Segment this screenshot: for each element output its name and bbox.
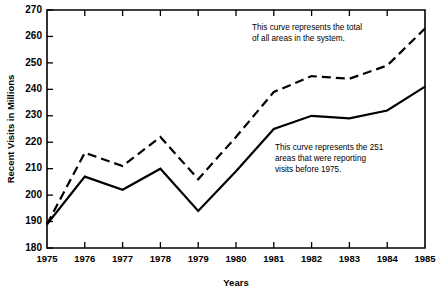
x-axis-ticks	[85, 10, 387, 248]
x-tick-label-1979: 1979	[188, 253, 209, 264]
x-tick-label-1977: 1977	[112, 253, 133, 264]
chart-container: 180190200210220230240250260270 197519761…	[0, 0, 439, 294]
y-axis-ticks	[47, 10, 53, 248]
plot-frame	[47, 10, 425, 248]
x-tick-label-1981: 1981	[263, 253, 285, 264]
x-tick-label-1982: 1982	[301, 253, 322, 264]
y-tick-label-180: 180	[25, 242, 42, 253]
annotation-reporting-line-3: visits before 1975.	[275, 165, 341, 174]
annotation-total-line-1: This curve represents the total	[252, 23, 362, 32]
annotation-reporting-line-1: This curve represents the 251	[275, 143, 384, 152]
y-tick-label-240: 240	[25, 83, 42, 94]
y-tick-label-210: 210	[25, 162, 42, 173]
x-tick-label-1983: 1983	[339, 253, 360, 264]
y-tick-label-260: 260	[25, 30, 42, 41]
annotation-reporting: This curve represents the 251 areas that…	[275, 143, 384, 174]
x-axis-tick-labels: 1975197619771978197919801981198219831984…	[36, 253, 436, 264]
y-tick-label-230: 230	[25, 109, 42, 120]
y-tick-label-190: 190	[25, 215, 42, 226]
x-tick-label-1985: 1985	[414, 253, 436, 264]
y-axis-tick-labels: 180190200210220230240250260270	[25, 4, 42, 253]
y-tick-label-270: 270	[25, 4, 42, 15]
visits-line-chart: 180190200210220230240250260270 197519761…	[0, 0, 439, 294]
annotation-total-line-2: of all areas in the system.	[252, 34, 345, 43]
x-tick-label-1978: 1978	[150, 253, 171, 264]
y-tick-label-250: 250	[25, 57, 42, 68]
series-line-total-all-areas	[47, 29, 425, 225]
y-axis-title: Recent Visits in Millions	[5, 75, 16, 184]
x-tick-label-1980: 1980	[225, 253, 246, 264]
annotation-total: This curve represents the total of all a…	[252, 23, 362, 43]
x-axis-title: Years	[223, 277, 248, 288]
series-line-251-reporting-areas	[47, 87, 425, 225]
x-tick-label-1984: 1984	[377, 253, 399, 264]
x-tick-label-1975: 1975	[36, 253, 58, 264]
y-tick-label-220: 220	[25, 136, 42, 147]
y-tick-label-200: 200	[25, 189, 42, 200]
annotation-reporting-line-2: areas that were reporting	[275, 154, 366, 163]
x-tick-label-1976: 1976	[74, 253, 95, 264]
